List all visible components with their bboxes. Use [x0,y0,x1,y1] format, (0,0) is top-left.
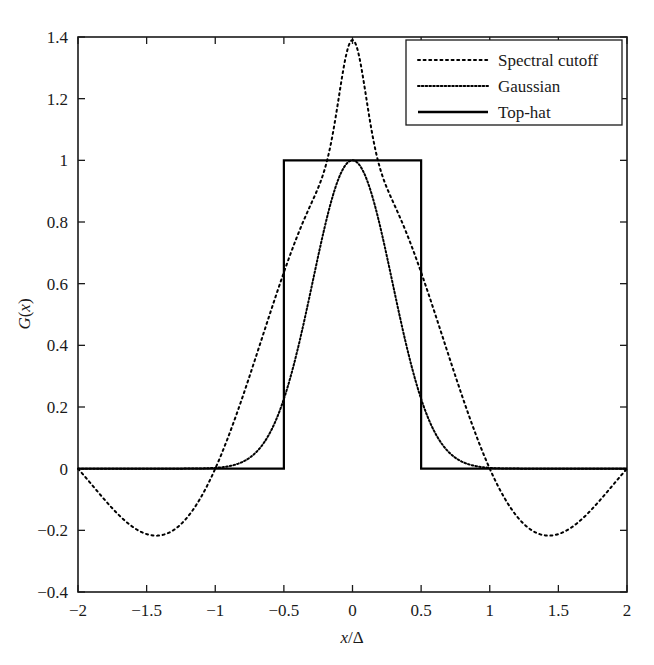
x-tick-label: 1.5 [548,601,569,620]
figure-container: −2−1.5−1−0.500.511.52 −0.4−0.200.20.40.6… [0,0,654,665]
x-axis-tick-labels: −2−1.5−1−0.500.511.52 [69,601,631,620]
y-axis-title: G(x) [15,298,34,329]
y-tick-label: 0.8 [47,213,68,232]
y-tick-label: 0.6 [47,275,68,294]
chart-canvas: −2−1.5−1−0.500.511.52 −0.4−0.200.20.40.6… [0,0,654,665]
legend-label-gaussian: Gaussian [498,77,561,96]
x-tick-label: −1 [206,601,224,620]
y-tick-label: 0.2 [47,398,68,417]
x-tick-label: 0 [348,601,357,620]
x-tick-label: 0.5 [411,601,432,620]
y-tick-label: −0.4 [37,583,68,602]
y-tick-label: 0.4 [47,336,69,355]
legend-label-top-hat: Top-hat [498,103,551,122]
legend-label-spectral-cutoff: Spectral cutoff [498,51,599,70]
y-tick-label: 0 [60,460,69,479]
y-tick-label: −0.2 [37,521,68,540]
y-tick-label: 1.4 [47,28,69,47]
x-axis-title: x/Δ [339,628,363,647]
y-tick-label: 1.2 [47,90,68,109]
x-tick-label: −2 [69,601,87,620]
series-path-top-hat [78,160,627,468]
x-tick-label: 1 [486,601,495,620]
x-tick-label: −0.5 [268,601,299,620]
y-axis-tick-labels: −0.4−0.200.20.40.60.811.21.4 [37,28,68,602]
chart-legend: Spectral cutoffGaussianTop-hat [406,40,622,125]
series-path-gaussian [78,160,627,468]
y-tick-label: 1 [60,151,69,170]
x-tick-label: 2 [623,601,632,620]
x-tick-label: −1.5 [131,601,162,620]
